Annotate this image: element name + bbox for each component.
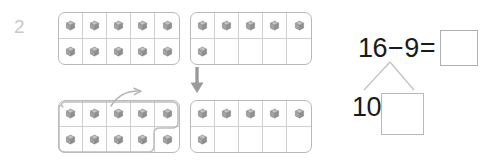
ten-frame-cell[interactable] — [59, 127, 83, 153]
ten-frame-cell[interactable] — [83, 13, 107, 39]
cube-icon — [293, 19, 306, 32]
ten-frame-cell[interactable] — [287, 101, 311, 127]
ten-frame-cell-empty[interactable] — [215, 39, 239, 65]
ten-frame-cell[interactable] — [131, 39, 155, 65]
ten-frame-top-left[interactable] — [58, 12, 180, 65]
ten-frame-cell[interactable] — [191, 13, 215, 39]
ten-frame-cell-empty[interactable] — [239, 127, 263, 153]
ten-frame-cell-empty[interactable] — [239, 39, 263, 65]
ten-frame-cell[interactable] — [191, 39, 215, 65]
cube-icon — [293, 107, 306, 120]
cube-icon — [112, 133, 125, 146]
ten-frame-cell[interactable] — [215, 101, 239, 127]
cube-icon — [88, 19, 101, 32]
ten-frame-cell[interactable] — [83, 39, 107, 65]
ten-frame-bottom-left[interactable] — [58, 100, 180, 153]
cube-icon — [112, 19, 125, 32]
ten-frame-cell-empty[interactable] — [287, 127, 311, 153]
ten-frame-cell[interactable] — [191, 101, 215, 127]
equation-minuend: 16 — [358, 35, 387, 62]
equation-answer-box[interactable] — [440, 30, 478, 66]
cube-icon — [88, 107, 101, 120]
cube-icon — [88, 133, 101, 146]
minus-sign: − — [387, 35, 404, 62]
ten-frame-cell[interactable] — [107, 39, 131, 65]
cube-icon — [161, 19, 174, 32]
equals-sign: = — [419, 35, 436, 62]
arrow-down-icon — [186, 66, 208, 96]
ten-frame-cell[interactable] — [131, 127, 155, 153]
cube-icon — [64, 45, 77, 58]
ten-frame-cell[interactable] — [107, 101, 131, 127]
cube-icon — [161, 133, 174, 146]
cube-icon — [244, 107, 257, 120]
ten-frame-cell-empty[interactable] — [263, 39, 287, 65]
cube-icon — [64, 19, 77, 32]
ten-frame-cell[interactable] — [191, 127, 215, 153]
cube-icon — [112, 107, 125, 120]
ten-frame-cell[interactable] — [155, 39, 179, 65]
equation: 16 − 9 = — [358, 30, 478, 66]
cube-icon — [136, 133, 149, 146]
cube-icon — [161, 45, 174, 58]
ten-frame-cell-empty[interactable] — [287, 39, 311, 65]
ten-frame-cell[interactable] — [287, 13, 311, 39]
cube-icon — [88, 45, 101, 58]
ten-frame-cell[interactable] — [263, 13, 287, 39]
cube-icon — [196, 107, 209, 120]
ten-frame-bottom-right[interactable] — [190, 100, 312, 153]
ten-frame-cell[interactable] — [239, 101, 263, 127]
cube-icon — [64, 107, 77, 120]
ten-frame-cell[interactable] — [59, 39, 83, 65]
worksheet-problem: 2 — [0, 0, 504, 163]
ten-frame-cell[interactable] — [155, 127, 179, 153]
cube-icon — [220, 19, 233, 32]
ten-frame-cell[interactable] — [263, 101, 287, 127]
ten-frame-cell[interactable] — [155, 13, 179, 39]
ten-frame-cell[interactable] — [215, 13, 239, 39]
cube-icon — [196, 133, 209, 146]
cube-icon — [268, 19, 281, 32]
ten-frame-cell[interactable] — [59, 13, 83, 39]
cube-icon — [196, 19, 209, 32]
equation-subtrahend: 9 — [404, 35, 419, 62]
ten-frame-top-right[interactable] — [190, 12, 312, 65]
ten-frame-cell[interactable] — [83, 101, 107, 127]
cube-icon — [136, 45, 149, 58]
cube-icon — [161, 107, 174, 120]
cube-icon — [136, 19, 149, 32]
cube-icon — [112, 45, 125, 58]
cube-icon — [136, 107, 149, 120]
cube-icon — [64, 133, 77, 146]
number-bond-right-box[interactable] — [381, 93, 424, 135]
cube-icon — [220, 107, 233, 120]
ten-frame-cell-empty[interactable] — [215, 127, 239, 153]
ten-frame-cell[interactable] — [131, 13, 155, 39]
ten-frame-cell[interactable] — [155, 101, 179, 127]
ten-frame-cell-empty[interactable] — [263, 127, 287, 153]
ten-frame-cell[interactable] — [107, 13, 131, 39]
cube-icon — [196, 45, 209, 58]
ten-frame-cell[interactable] — [107, 127, 131, 153]
cube-icon — [244, 19, 257, 32]
ten-frame-cell[interactable] — [83, 127, 107, 153]
ten-frame-cell[interactable] — [59, 101, 83, 127]
ten-frame-cell[interactable] — [239, 13, 263, 39]
cube-icon — [268, 107, 281, 120]
problem-number: 2 — [14, 17, 25, 36]
ten-frame-cell[interactable] — [131, 101, 155, 127]
number-bond-left-part: 10 — [352, 94, 381, 121]
